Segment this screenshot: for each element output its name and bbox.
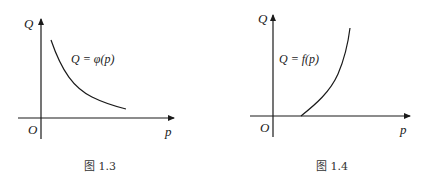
fig13-origin-label: O	[28, 122, 37, 138]
fig14-caption: 图 1.4	[316, 157, 348, 173]
fig14-supply-curve	[301, 28, 350, 116]
fig13-x-axis-label: p	[165, 124, 172, 140]
figure-1-4	[250, 15, 410, 137]
fig14-curve-label: Q = f(p)	[279, 52, 319, 67]
diagram-canvas	[0, 0, 423, 186]
fig13-curve-label: Q = φ(p)	[71, 52, 114, 67]
fig14-origin-label: O	[260, 120, 269, 136]
figure-1-3	[18, 19, 174, 139]
fig13-demand-curve	[51, 40, 126, 109]
fig13-y-axis-label: Q	[24, 16, 33, 32]
fig14-y-axis-label: Q	[258, 11, 267, 27]
fig13-caption: 图 1.3	[84, 157, 116, 173]
fig14-x-axis-label: p	[400, 122, 407, 138]
